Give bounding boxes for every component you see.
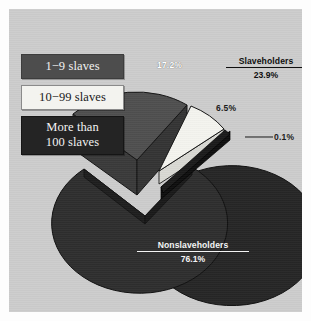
slice-label-hundred-plus: 0.1%: [274, 132, 294, 142]
figure-frame: 17.2% 6.5% 0.1% Slaveholders 23.9% Nonsl…: [0, 0, 311, 321]
legend-label-one-to-nine: 1−9 slaves: [45, 59, 99, 73]
callout-slaveholders-category: Slaveholders: [226, 56, 302, 68]
callout-slaveholders: Slaveholders 23.9%: [226, 56, 302, 80]
callout-slaveholders-value: 23.9%: [226, 70, 302, 80]
legend-item-one-to-nine: 1−9 slaves: [21, 54, 124, 79]
slice-nonslaveholders: [52, 166, 302, 306]
legend-label-ten-to-ninetynine: 10−99 slaves: [39, 90, 106, 104]
callout-nonslaveholders: Nonslaveholders 76.1%: [137, 240, 249, 264]
legend: 1−9 slaves 10−99 slaves More than 100 sl…: [21, 54, 124, 161]
legend-label-hundred-plus-line1: More than: [24, 120, 121, 135]
callout-nonslaveholders-category: Nonslaveholders: [137, 240, 249, 252]
chart-panel: 17.2% 6.5% 0.1% Slaveholders 23.9% Nonsl…: [9, 9, 302, 312]
legend-item-ten-to-ninetynine: 10−99 slaves: [21, 85, 124, 110]
slice-label-one-to-nine: 17.2%: [157, 60, 182, 70]
callout-nonslaveholders-value: 76.1%: [137, 254, 249, 264]
legend-label-hundred-plus-line2: 100 slaves: [24, 135, 121, 150]
legend-item-hundred-plus: More than 100 slaves: [21, 116, 124, 155]
slice-label-ten-to-ninetynine: 6.5%: [216, 103, 236, 113]
